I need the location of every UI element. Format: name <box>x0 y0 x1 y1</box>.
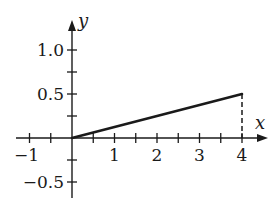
x-axis-arrow-icon <box>257 134 268 142</box>
y-tick-label: 0.5 <box>37 84 64 104</box>
x-tick-label: 3 <box>194 145 205 165</box>
x-tick-label: 1 <box>109 145 120 165</box>
y-tick-label: −0.5 <box>23 172 64 192</box>
y-axis-arrow-icon <box>68 20 76 31</box>
line-chart: −112341.00.5−0.5 x y <box>0 0 277 200</box>
data-line <box>72 94 242 138</box>
y-tick-label: 1.0 <box>37 40 64 60</box>
y-axis-label: y <box>77 10 89 31</box>
data-series <box>72 94 242 138</box>
x-tick-label: 2 <box>152 145 163 165</box>
x-tick-label: −1 <box>14 145 39 165</box>
ticks <box>30 50 243 182</box>
x-axis-label: x <box>255 112 265 133</box>
x-tick-label: 4 <box>237 145 248 165</box>
tick-labels: −112341.00.5−0.5 <box>14 40 247 192</box>
